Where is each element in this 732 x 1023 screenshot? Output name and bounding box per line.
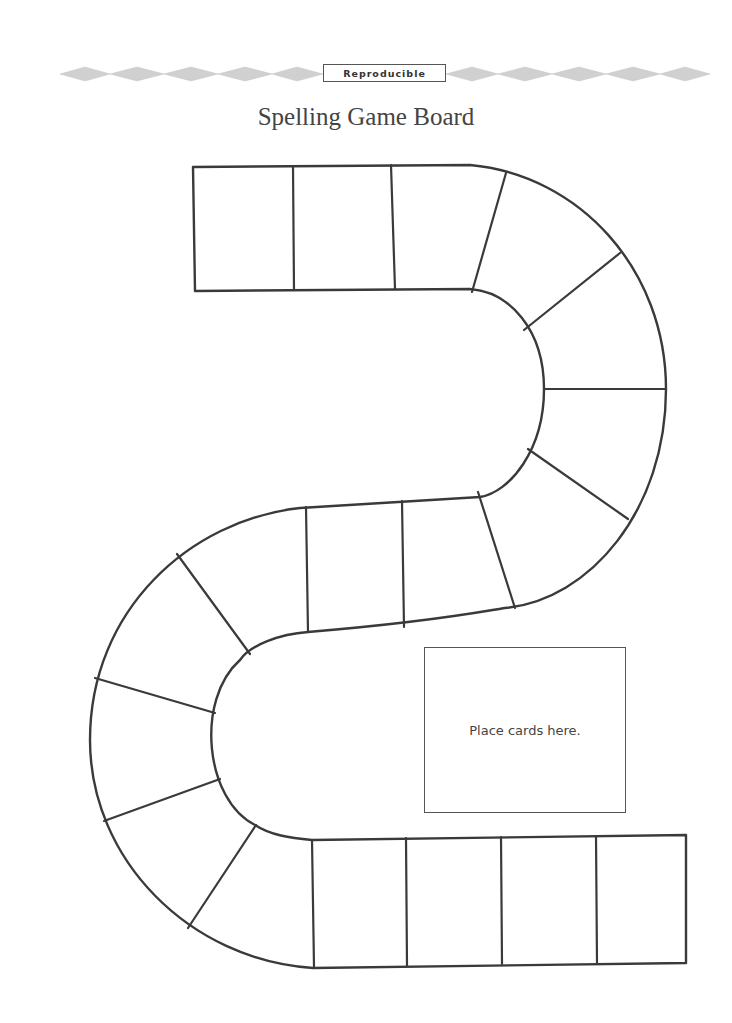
space-divider <box>188 825 256 928</box>
space-divider <box>402 501 404 627</box>
space-divider <box>524 253 620 330</box>
space-divider <box>528 449 628 519</box>
space-divider <box>596 836 597 963</box>
space-divider <box>478 492 515 608</box>
card-area-label: Place cards here. <box>469 723 581 738</box>
space-divider <box>501 837 502 964</box>
space-divider <box>391 165 395 289</box>
space-divider <box>312 840 314 967</box>
space-divider <box>177 554 250 654</box>
space-divider <box>306 507 308 632</box>
space-divider <box>95 678 215 713</box>
space-divider <box>472 173 506 292</box>
space-divider <box>293 166 294 290</box>
space-divider <box>104 779 220 821</box>
card-placement-area: Place cards here. <box>424 647 626 813</box>
space-divider <box>406 838 407 966</box>
game-board <box>0 0 732 1023</box>
